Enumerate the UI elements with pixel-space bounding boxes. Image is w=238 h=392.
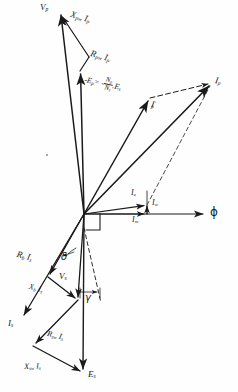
label-is: Is (8, 319, 13, 329)
phasor-rb-is (50, 214, 84, 274)
label-es: Es (88, 370, 96, 380)
phasor-rpw-ip (80, 57, 89, 71)
label-delta-angle: δ (61, 252, 67, 262)
label-phi-axis: ϕ (210, 206, 218, 218)
label-vp: Vp (40, 3, 48, 13)
scan-speck (46, 154, 48, 156)
label-iw: Iw (152, 199, 158, 208)
phasor-es (83, 214, 84, 369)
phasor-ie (84, 206, 144, 214)
label-ie: Ie (131, 189, 136, 198)
label-xsw-is: Xsw Is (24, 362, 41, 372)
right-angle-marker (86, 214, 100, 230)
phasor-vector-group (0, 0, 238, 392)
phasor-ip (84, 86, 209, 214)
delta-arc (68, 248, 76, 254)
construction-ie-to-ip (147, 86, 210, 205)
phasor-diagram-canvas: Vp Xpw Ip Rpw Ip -Ep= -NpNs.Es I'p Ip Ie… (0, 0, 238, 392)
label-gamma-angle: γ (85, 293, 91, 303)
label-vs: Vs (59, 272, 67, 282)
label-im: Im (132, 216, 138, 225)
